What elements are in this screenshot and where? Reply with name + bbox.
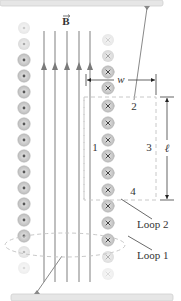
field-arrowheads	[41, 62, 93, 70]
side-label-4: 4	[130, 185, 136, 197]
right-coil-column-crosses	[102, 34, 114, 280]
svg-text:Loop 2: Loop 2	[137, 218, 168, 230]
solenoid-diagram: B	[0, 0, 181, 301]
svg-text:w: w	[117, 73, 125, 85]
length-dimension: ℓ	[160, 97, 174, 200]
width-dimension: w	[86, 73, 156, 95]
side-label-3: 3	[146, 141, 152, 153]
field-label-B: B	[62, 15, 70, 28]
top-plate	[0, 0, 163, 100]
loop-2-label: Loop 2	[121, 199, 168, 230]
svg-text:Loop 1: Loop 1	[137, 249, 168, 261]
loop-1-label: Loop 1	[128, 236, 168, 261]
side-label-1: 1	[92, 141, 98, 153]
bottom-plate	[11, 256, 173, 301]
side-label-2: 2	[131, 100, 137, 112]
svg-text:ℓ: ℓ	[165, 142, 170, 154]
